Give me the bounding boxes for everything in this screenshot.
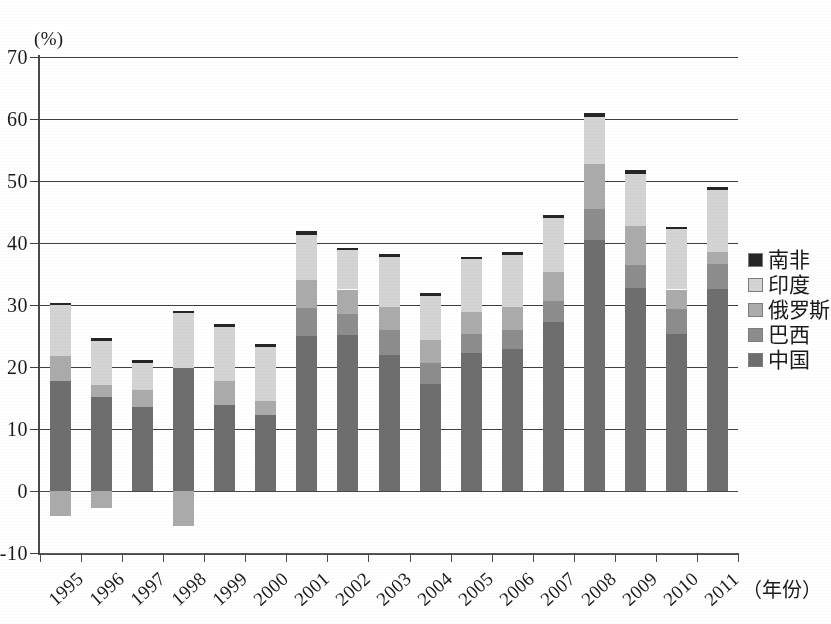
bar-segment-印度-2004 (420, 296, 441, 339)
bar-segment-巴西-2002 (337, 314, 358, 336)
x-axis-title: （年份） (742, 574, 822, 603)
bar-segment-巴西-2004 (420, 363, 441, 385)
bar-1995 (50, 57, 71, 553)
x-tick-label-2003: 2003 (372, 568, 416, 611)
x-tick-label-1996: 1996 (85, 568, 129, 611)
bar-segment-南非-2005 (461, 257, 482, 259)
x-tick-label-2010: 2010 (659, 568, 703, 611)
y-tick-label-30: 30 (7, 295, 28, 315)
bar-2006 (502, 57, 523, 553)
bar-2003 (379, 57, 400, 553)
bar-2002 (337, 57, 358, 553)
x-tick-label-2007: 2007 (536, 568, 580, 611)
bar-segment-印度-2001 (296, 235, 317, 280)
legend: 南非印度俄罗斯巴西中国 (748, 248, 831, 373)
bar-segment-巴西-2007 (543, 301, 564, 322)
bar-segment-印度-1997 (132, 363, 153, 390)
bar-segment-巴西-2003 (379, 330, 400, 355)
bar-segment-中国-2007 (543, 322, 564, 491)
legend-swatch-中国 (748, 353, 763, 367)
bar-segment-俄罗斯-1997 (132, 390, 153, 407)
legend-swatch-俄罗斯 (748, 303, 763, 317)
bar-segment-俄罗斯-2006 (502, 307, 523, 331)
bar-2008 (584, 57, 605, 553)
bar-segment-巴西-2011 (707, 264, 728, 289)
y-tick-mark-20 (30, 367, 40, 368)
bar-segment-negative-俄罗斯-1995 (50, 491, 71, 516)
bar-segment-印度-1998 (173, 313, 194, 368)
legend-label-俄罗斯: 俄罗斯 (768, 300, 830, 321)
bar-segment-俄罗斯-2005 (461, 312, 482, 334)
x-tick-label-2001: 2001 (290, 568, 334, 611)
bar-segment-南非-1997 (132, 360, 153, 362)
bar-2009 (625, 57, 646, 553)
bar-segment-俄罗斯-2001 (296, 280, 317, 308)
bar-segment-中国-1999 (214, 405, 235, 491)
bar-2005 (461, 57, 482, 553)
bar-segment-negative-俄罗斯-1998 (173, 491, 194, 526)
bar-segment-南非-2008 (584, 113, 605, 117)
bar-segment-中国-2003 (379, 355, 400, 491)
bar-segment-俄罗斯-2004 (420, 340, 441, 363)
legend-item-印度: 印度 (748, 273, 831, 297)
plot-area (40, 57, 738, 553)
bar-segment-南非-2001 (296, 231, 317, 235)
bar-segment-印度-2009 (625, 174, 646, 226)
bar-segment-印度-1995 (50, 305, 71, 356)
bar-segment-巴西-2005 (461, 334, 482, 353)
legend-label-巴西: 巴西 (768, 325, 809, 346)
y-tick-mark-30 (30, 305, 40, 306)
bar-segment-南非-2000 (255, 344, 276, 347)
bar-2001 (296, 57, 317, 553)
bar-segment-印度-1999 (214, 327, 235, 381)
bar-series-group (40, 57, 738, 553)
bar-1999 (214, 57, 235, 553)
bar-segment-巴西-2009 (625, 265, 646, 287)
y-tick-label-70: 70 (7, 47, 28, 67)
y-tick-label-40: 40 (7, 233, 28, 253)
x-tick-label-1997: 1997 (126, 568, 170, 611)
bar-segment-南非-2004 (420, 293, 441, 296)
bar-segment-中国-1996 (91, 397, 112, 491)
y-tick-mark-70 (30, 57, 40, 58)
y-axis-unit-label: (%) (34, 28, 63, 50)
legend-label-中国: 中国 (768, 350, 809, 371)
x-tick-label-1999: 1999 (208, 568, 252, 611)
x-tick-label-2006: 2006 (495, 568, 539, 611)
bar-segment-南非-1996 (91, 338, 112, 340)
x-tick-label-2011: 2011 (700, 568, 743, 610)
legend-swatch-印度 (748, 278, 763, 292)
bar-segment-印度-2008 (584, 117, 605, 164)
y-tick-mark-10 (30, 429, 40, 430)
x-tick-label-2004: 2004 (413, 568, 457, 611)
bar-segment-俄罗斯-1995 (50, 356, 71, 381)
bar-segment-南非-1998 (173, 311, 194, 313)
bar-segment-南非-2010 (666, 227, 687, 229)
bar-segment-中国-2004 (420, 384, 441, 491)
bar-segment-中国-2001 (296, 336, 317, 491)
bar-segment-印度-1996 (91, 341, 112, 385)
bar-segment-南非-1999 (214, 324, 235, 326)
x-axis-labels: 1995199619971998199920002001200220032004… (0, 560, 831, 624)
bar-segment-俄罗斯-2010 (666, 290, 687, 309)
bar-segment-俄罗斯-2000 (255, 401, 276, 415)
bar-segment-中国-2010 (666, 334, 687, 491)
y-tick-label-0: 0 (18, 481, 29, 501)
bar-segment-印度-2011 (707, 190, 728, 252)
y-tick-mark-40 (30, 243, 40, 244)
bar-segment-印度-2006 (502, 255, 523, 307)
bar-segment-南非-2007 (543, 215, 564, 218)
bar-segment-中国-2011 (707, 289, 728, 491)
legend-item-巴西: 巴西 (748, 323, 831, 347)
bar-segment-俄罗斯-2002 (337, 290, 358, 314)
bar-segment-中国-2009 (625, 288, 646, 491)
x-tick-label-2009: 2009 (618, 568, 662, 611)
y-tick-mark--10 (30, 553, 40, 554)
legend-swatch-南非 (748, 253, 763, 267)
bar-segment-南非-2011 (707, 187, 728, 189)
bar-segment-巴西-2008 (584, 209, 605, 240)
bar-segment-印度-2003 (379, 257, 400, 307)
bar-segment-俄罗斯-2008 (584, 164, 605, 209)
x-tick-label-2005: 2005 (454, 568, 498, 611)
bar-segment-印度-2005 (461, 259, 482, 312)
